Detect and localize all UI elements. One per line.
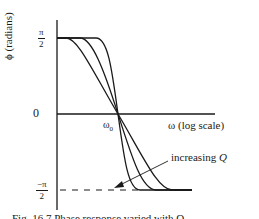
x-axis-label: ω (log scale) [168, 120, 224, 131]
tick-zero: 0 [33, 107, 39, 119]
y-axis-label: ϕ (radians) [3, 12, 14, 60]
omega-subscript: 0 [110, 125, 114, 133]
increasing-q-annotation: increasing Q [171, 152, 227, 163]
pi-symbol: π [42, 179, 47, 189]
tick-neg-half-pi: −π 2 [36, 180, 48, 201]
tick-neg-half-pi-numerator: −π [36, 180, 48, 191]
figure-caption: Fig. 16.7 Phase response varied with Q [12, 213, 184, 219]
tick-pos-half-pi-numerator: π [38, 28, 45, 39]
tick-pos-half-pi: π 2 [38, 28, 45, 49]
phase-response-figure: ϕ (radians) π 2 0 −π 2 ω0 ω (log scale) … [0, 0, 259, 219]
tick-neg-half-pi-denominator: 2 [36, 191, 48, 201]
omega-symbol: ω [103, 119, 110, 130]
annotation-text: increasing [171, 151, 219, 163]
arrowhead-icon [114, 181, 124, 188]
tick-pos-half-pi-denominator: 2 [38, 39, 45, 49]
annotation-variable: Q [219, 151, 227, 163]
omega-zero-marker: ω0 [103, 120, 113, 133]
